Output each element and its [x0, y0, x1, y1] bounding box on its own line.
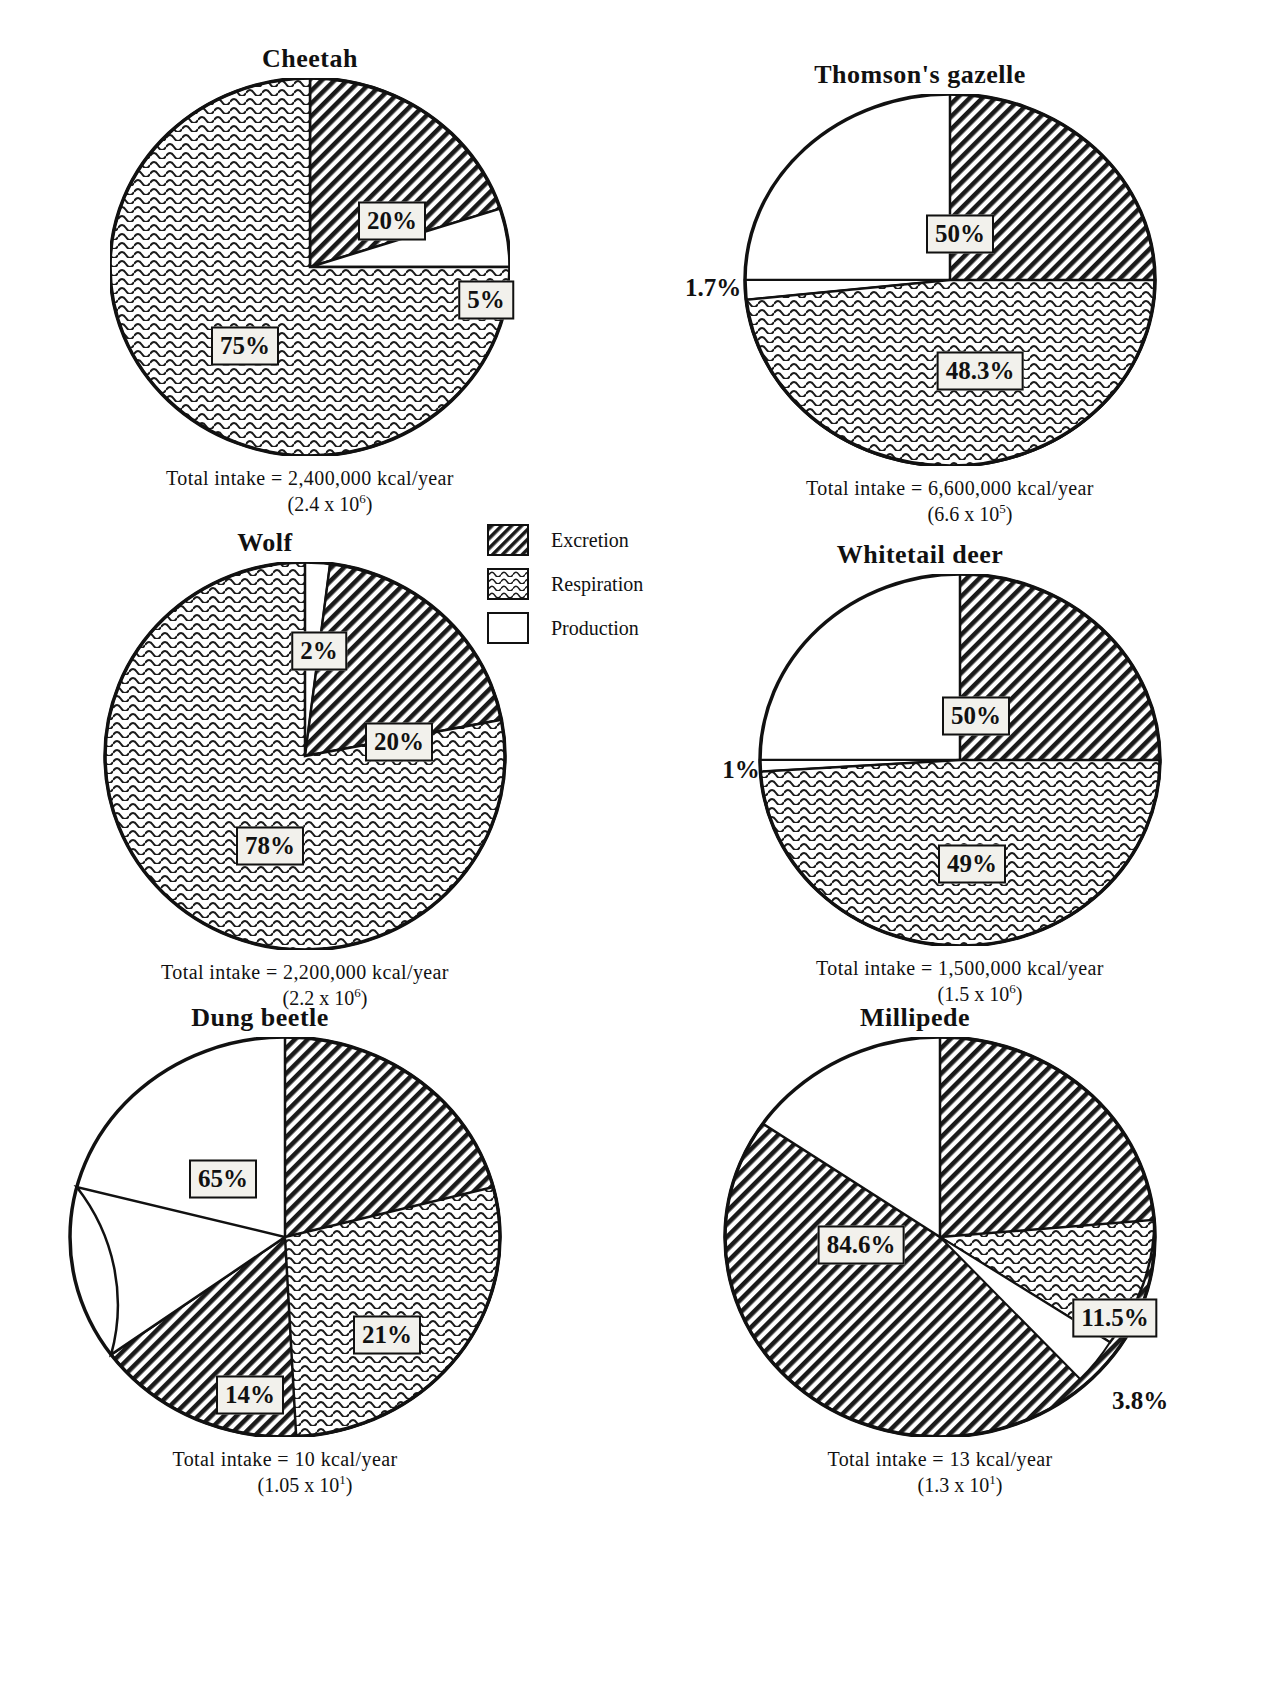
chart-title: Wolf: [55, 528, 475, 558]
slice-label-excretion: 50%: [926, 215, 994, 254]
caption-scientific-notation: (1.3 x 101): [690, 1472, 1190, 1498]
pie-millipede: 84.6% 11.5% 3.8%: [715, 1037, 1165, 1437]
chart-cheetah: Cheetah 20% 5% 75% Total intake = 2,400,…: [60, 44, 560, 517]
legend-label: Respiration: [551, 573, 643, 596]
slice-label-production: 14%: [216, 1376, 284, 1415]
caption-mantissa: (6.6 x 10: [928, 503, 1000, 525]
caption-mantissa: (1.5 x 10: [938, 983, 1010, 1005]
chart-wolf: Wolf 2% 20% 78% Total intake = 2,200,000…: [55, 528, 555, 1011]
pie-cheetah: 20% 5% 75%: [110, 78, 510, 456]
chart-whitetail-deer: Whitetail deer 50% 1% 49% Total intake =…: [710, 540, 1210, 1007]
slice-label-production: 2%: [291, 632, 347, 671]
slice-label-production: 1.7%: [685, 274, 741, 302]
chart-title: Thomson's gazelle: [700, 60, 1140, 90]
figure-page: Cheetah 20% 5% 75% Total intake = 2,400,…: [0, 0, 1279, 1697]
chart-caption: Total intake = 1,500,000 kcal/year (1.5 …: [710, 956, 1210, 1007]
pie-whitetail-deer: 50% 1% 49%: [750, 574, 1170, 946]
pie-svg: [60, 1037, 510, 1437]
chart-title: Millipede: [690, 1003, 1140, 1033]
caption-scientific-notation: (1.05 x 101): [35, 1472, 535, 1498]
slice-label-production: 3.8%: [1112, 1387, 1168, 1415]
chart-caption: Total intake = 2,400,000 kcal/year (2.4 …: [60, 466, 560, 517]
caption-scientific-notation: (6.6 x 105): [700, 501, 1200, 527]
caption-close-paren: ): [1016, 983, 1023, 1005]
chart-caption: Total intake = 10 kcal/year (1.05 x 101): [35, 1447, 535, 1498]
caption-total-intake: Total intake = 2,200,000 kcal/year: [55, 960, 555, 985]
caption-close-paren: ): [1006, 503, 1013, 525]
pie-svg: [750, 574, 1170, 946]
slice-label-respiration: 21%: [353, 1316, 421, 1355]
caption-mantissa: (1.3 x 10: [918, 1474, 990, 1496]
legend-label: Production: [551, 617, 639, 640]
chart-caption: Total intake = 6,600,000 kcal/year (6.6 …: [700, 476, 1200, 527]
pie-svg: [95, 562, 515, 950]
caption-total-intake: Total intake = 1,500,000 kcal/year: [710, 956, 1210, 981]
pie-svg: [715, 1037, 1165, 1437]
pie-wolf: 2% 20% 78%: [95, 562, 515, 950]
slice-label-respiration: 75%: [211, 327, 279, 366]
slice-label-production: 1%: [722, 756, 760, 784]
legend-label: Excretion: [551, 529, 629, 552]
chart-millipede: Millipede 84.6% 11.5% 3.8% Total intake …: [690, 1003, 1190, 1498]
slice-label-respiration: 48.3%: [937, 352, 1024, 391]
caption-mantissa: (2.4 x 10: [288, 493, 360, 515]
caption-close-paren: ): [366, 493, 373, 515]
chart-caption: Total intake = 13 kcal/year (1.3 x 101): [690, 1447, 1190, 1498]
caption-total-intake: Total intake = 2,400,000 kcal/year: [60, 466, 560, 491]
slice-label-respiration: 78%: [236, 827, 304, 866]
slice-label-respiration: 11.5%: [1072, 1299, 1157, 1338]
caption-total-intake: Total intake = 6,600,000 kcal/year: [700, 476, 1200, 501]
pie-svg: [730, 94, 1170, 466]
slice-label-excretion: 84.6%: [818, 1226, 905, 1265]
caption-total-intake: Total intake = 13 kcal/year: [690, 1447, 1190, 1472]
caption-scientific-notation: (2.4 x 106): [60, 491, 560, 517]
pie-dung-beetle: 65% 21% 14%: [60, 1037, 510, 1437]
slice-label-excretion: 65%: [189, 1160, 257, 1199]
chart-dung-beetle: Dung beetle 65% 21% 14% Total intake = 1…: [35, 1003, 535, 1498]
slice-label-excretion: 20%: [358, 202, 426, 241]
pie-thomsons-gazelle: 50% 1.7% 48.3%: [730, 94, 1170, 466]
caption-close-paren: ): [996, 1474, 1003, 1496]
chart-title: Whitetail deer: [710, 540, 1130, 570]
chart-title: Dung beetle: [35, 1003, 485, 1033]
chart-thomsons-gazelle: Thomson's gazelle 50% 1.7% 48.3% Total i…: [700, 60, 1200, 527]
slice-label-excretion: 20%: [365, 723, 433, 762]
caption-mantissa: (1.05 x 10: [258, 1474, 340, 1496]
chart-title: Cheetah: [60, 44, 560, 74]
slice-label-respiration: 49%: [938, 845, 1006, 884]
pie-svg: [110, 78, 510, 456]
caption-total-intake: Total intake = 10 kcal/year: [35, 1447, 535, 1472]
slice-label-excretion: 50%: [942, 697, 1010, 736]
caption-close-paren: ): [346, 1474, 353, 1496]
slice-label-production: 5%: [458, 281, 514, 320]
